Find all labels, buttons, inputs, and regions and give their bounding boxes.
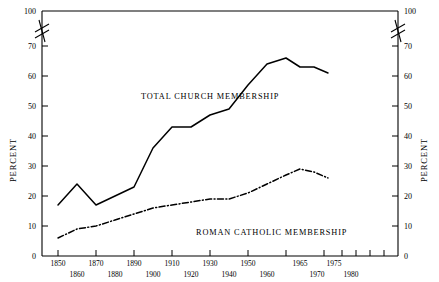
y-tick-label-right-10: 10 <box>404 222 412 231</box>
x-tick-label-1920: 1920 <box>184 270 199 279</box>
y-tick-label-left-100: 100 <box>24 7 36 16</box>
membership-line-chart: 100 70 60 50 40 30 20 10 0 100 70 60 50 … <box>0 0 439 282</box>
y-tick-label-right-40: 40 <box>404 132 412 141</box>
x-tick-label-1900: 1900 <box>146 270 161 279</box>
y-tick-label-right-20: 20 <box>404 192 412 201</box>
chart-background <box>0 0 439 282</box>
x-tick-label-1970: 1970 <box>310 270 325 279</box>
y-tick-label-right-30: 30 <box>404 162 412 171</box>
annotation-total-church-membership: TOTAL CHURCH MEMBERSHIP <box>141 92 279 101</box>
y-tick-label-right-0: 0 <box>404 252 408 261</box>
x-tick-label-1980: 1980 <box>344 270 359 279</box>
y-tick-label-left-60: 60 <box>28 72 36 81</box>
x-tick-label-1950: 1950 <box>241 259 256 268</box>
y-tick-label-left-30: 30 <box>28 162 36 171</box>
x-tick-label-1975: 1975 <box>327 259 342 268</box>
x-tick-label-1890: 1890 <box>127 259 142 268</box>
y-tick-label-left-40: 40 <box>28 132 36 141</box>
y-tick-label-left-50: 50 <box>28 102 36 111</box>
x-tick-label-1960: 1960 <box>260 270 275 279</box>
x-tick-label-1870: 1870 <box>89 259 104 268</box>
x-tick-label-1940: 1940 <box>222 270 237 279</box>
y-axis-title-left: PERCENT <box>8 138 18 182</box>
x-tick-label-1910: 1910 <box>165 259 180 268</box>
x-tick-label-1965: 1965 <box>293 259 308 268</box>
y-tick-label-right-60: 60 <box>404 72 412 81</box>
x-tick-label-1850: 1850 <box>51 259 66 268</box>
y-tick-label-right-50: 50 <box>404 102 412 111</box>
y-tick-label-left-10: 10 <box>28 222 36 231</box>
y-tick-label-right-100: 100 <box>404 7 416 16</box>
chart-container: 100 70 60 50 40 30 20 10 0 100 70 60 50 … <box>0 0 439 282</box>
y-tick-label-left-0: 0 <box>32 252 36 261</box>
y-axis-title-right: PERCENT <box>419 138 429 182</box>
x-tick-label-1880: 1880 <box>108 270 123 279</box>
y-tick-label-left-20: 20 <box>28 192 36 201</box>
y-tick-label-right-70: 70 <box>404 42 412 51</box>
x-tick-label-1930: 1930 <box>203 259 218 268</box>
y-tick-label-left-70: 70 <box>28 42 36 51</box>
x-tick-label-1860: 1860 <box>70 270 85 279</box>
annotation-roman-catholic-membership: ROMAN CATHOLIC MEMBERSHIP <box>196 228 347 237</box>
